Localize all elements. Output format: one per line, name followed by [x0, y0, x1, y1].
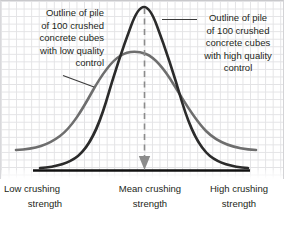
callout-high-line-3: concrete cubes: [196, 37, 280, 50]
axis-label-low-crushing-strength: Low crushing strength: [2, 182, 104, 211]
callout-high-quality: Outline of pile of 100 crushed concrete …: [196, 12, 280, 75]
axis-label-mean-crushing-strength: Mean crushing strength: [104, 182, 196, 211]
axis-label-high-line-1: High crushing: [210, 183, 268, 194]
callout-high-line-2: of 100 crushed: [196, 25, 280, 38]
axis-label-mean-line-2: strength: [104, 197, 196, 212]
axis-label-low-line-2: strength: [4, 197, 104, 212]
callout-low-line-2: of 100 crushed: [8, 20, 104, 33]
axis-label-low-line-1: Low crushing: [4, 183, 60, 194]
callout-high-line-5: control: [196, 62, 280, 75]
callout-low-line-4: with low quality: [8, 45, 104, 58]
callout-low-quality: Outline of pile of 100 crushed concrete …: [8, 7, 104, 70]
mean-arrowhead: [139, 156, 150, 170]
figure-normal-distribution-crushing-strength: Outline of pile of 100 crushed concrete …: [0, 0, 284, 228]
callout-high-line-4: with high quality: [196, 50, 280, 63]
axis-label-high-line-2: strength: [196, 197, 282, 212]
callout-low-line-5: control: [8, 57, 104, 70]
axis-label-high-crushing-strength: High crushing strength: [196, 182, 282, 211]
callout-low-line-3: concrete cubes: [8, 32, 104, 45]
callout-low-line-1: Outline of pile: [8, 7, 104, 20]
axis-label-row: Low crushing strength Mean crushing stre…: [0, 182, 284, 228]
axis-label-mean-line-1: Mean crushing: [119, 183, 181, 194]
callout-high-line-1: Outline of pile: [196, 12, 280, 25]
leader-line-low-quality: [63, 76, 94, 88]
